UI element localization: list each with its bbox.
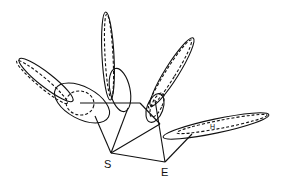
e-label: E [161,166,168,178]
connector-lines [80,100,192,162]
s-to-e-line [111,153,165,162]
tree-diagram: H S E [0,0,281,184]
left-outer-ellipse-solid [15,54,77,107]
s-label: S [104,158,111,170]
upper-right-long-ellipse-dashed [145,37,196,110]
right-ellipse-dashed [176,111,268,136]
right-ellipse-group: H [162,108,271,144]
right-ellipse-solid [162,108,271,144]
h-label: H [210,123,215,130]
left-ellipse-group [14,54,116,132]
upper-right-long-ellipse-solid [145,34,199,109]
top-center-ellipse-group [100,12,135,114]
s-to-right-line [111,124,160,153]
left-outer-ellipse-dashed [14,57,71,107]
s-to-center-line [111,108,128,153]
top-center-small-ellipse-solid [106,66,135,113]
upper-right-ellipse-group [142,34,199,124]
e-to-right-line [165,134,192,162]
